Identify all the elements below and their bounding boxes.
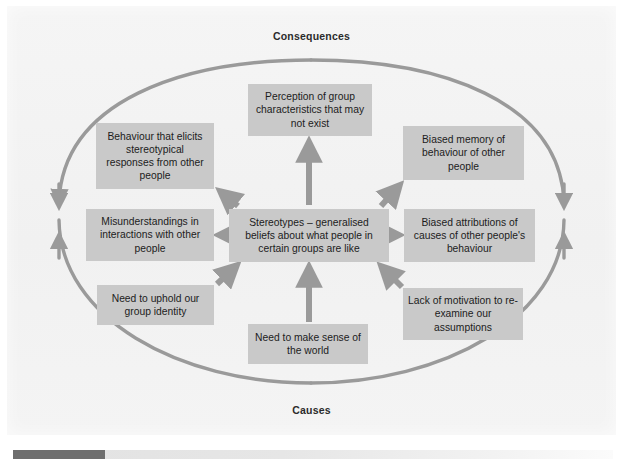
- arrow-diagonal-icon: [381, 186, 399, 206]
- page-bottom-margin: [7, 436, 616, 443]
- node-behaviour-label: Behaviour that elicits stereotypical res…: [101, 130, 209, 183]
- node-stereotypes-centre: Stereotypes – generalised beliefs about …: [229, 209, 389, 262]
- node-behaviour: Behaviour that elicits stereotypical res…: [96, 123, 214, 189]
- document-page: Consequences Perception of group charact…: [0, 0, 623, 462]
- diagram-title-consequences: Consequences: [7, 30, 616, 42]
- node-perception-label: Perception of group characteristics that…: [253, 90, 367, 130]
- stereotype-cycle-diagram: Consequences Perception of group charact…: [7, 6, 616, 435]
- node-misunderstandings: Misunderstandings in interactions with o…: [86, 209, 214, 261]
- arrow-diagonal-icon: [382, 267, 402, 287]
- node-perception: Perception of group characteristics that…: [248, 84, 372, 136]
- horizontal-scrollbar[interactable]: [0, 449, 623, 460]
- node-make-sense: Need to make sense of the world: [248, 324, 368, 364]
- node-biased-memory-label: Biased memory of behaviour of other peop…: [408, 133, 519, 173]
- node-lack-of-motivation-label: Lack of motivation to re-examine our ass…: [408, 294, 518, 334]
- node-biased-attributions: Biased attributions of causes of other p…: [404, 209, 535, 262]
- node-biased-memory: Biased memory of behaviour of other peop…: [403, 126, 524, 180]
- node-stereotypes-centre-label: Stereotypes – generalised beliefs about …: [234, 216, 384, 256]
- arrow-diagonal-icon: [217, 266, 236, 284]
- node-misunderstandings-label: Misunderstandings in interactions with o…: [91, 215, 209, 255]
- scrollbar-thumb[interactable]: [13, 450, 105, 459]
- figure-sheet: Consequences Perception of group charact…: [7, 6, 616, 435]
- node-make-sense-label: Need to make sense of the world: [253, 331, 363, 357]
- node-biased-attributions-label: Biased attributions of causes of other p…: [409, 216, 530, 256]
- node-lack-of-motivation: Lack of motivation to re-examine our ass…: [403, 288, 523, 340]
- arrow-diagonal-icon: [221, 192, 238, 206]
- node-group-identity: Need to uphold our group identity: [97, 285, 214, 325]
- node-group-identity-label: Need to uphold our group identity: [102, 292, 209, 318]
- diagram-title-causes: Causes: [7, 404, 616, 416]
